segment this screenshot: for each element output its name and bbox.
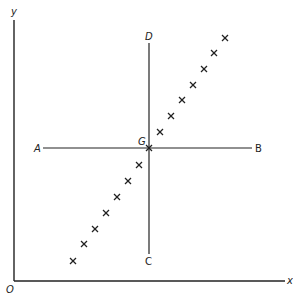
label-c: C — [145, 256, 152, 267]
bleed-through-caption — [4, 291, 289, 300]
cross-marker — [211, 50, 217, 56]
cross-marker — [114, 194, 120, 200]
label-g-centroid: G — [138, 136, 146, 147]
label-b: B — [255, 143, 262, 154]
y-axis-label: y — [10, 6, 18, 17]
cross-marker — [168, 113, 174, 119]
label-a: A — [33, 143, 41, 154]
cross-marker — [222, 35, 228, 41]
label-d: D — [145, 31, 153, 42]
scatter-diagram: y x O D C A B G — [0, 0, 293, 300]
cross-marker — [157, 129, 163, 135]
x-axis-label: x — [286, 275, 293, 286]
cross-marker — [136, 162, 142, 168]
cross-marker — [103, 210, 109, 216]
cross-marker — [92, 226, 98, 232]
cross-marker — [201, 66, 207, 72]
cross-marker — [179, 97, 185, 103]
cross-marker — [70, 258, 76, 264]
cross-marker — [125, 178, 131, 184]
cross-marker — [190, 82, 196, 88]
cross-marker — [81, 241, 87, 247]
